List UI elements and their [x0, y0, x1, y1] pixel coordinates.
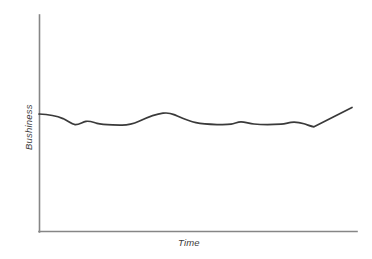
chart-figure: Bushiness Time [0, 0, 372, 259]
chart-canvas [0, 0, 372, 259]
x-axis-title: Time [178, 238, 200, 248]
data-series-bushiness [39, 108, 352, 127]
y-axis-title: Bushiness [24, 104, 34, 150]
